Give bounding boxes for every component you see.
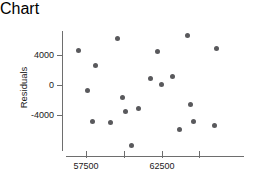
plot-area	[0, 18, 259, 176]
data-point	[155, 49, 160, 54]
data-point	[120, 95, 125, 100]
data-point	[159, 82, 164, 87]
data-point	[76, 48, 81, 53]
scatter-plot: 4000 0 -4000 57500 62500 Residuals Predi…	[0, 18, 259, 176]
data-point	[93, 63, 98, 68]
data-point	[90, 119, 95, 124]
data-point	[188, 102, 193, 107]
data-point	[85, 88, 90, 93]
data-point	[177, 127, 182, 132]
data-point	[123, 109, 128, 114]
data-point	[170, 74, 175, 79]
data-point	[214, 46, 219, 51]
data-point	[212, 123, 217, 128]
data-point	[185, 33, 190, 38]
data-point	[129, 143, 134, 148]
data-point	[191, 119, 196, 124]
data-point	[148, 76, 153, 81]
data-point	[108, 120, 113, 125]
data-point	[115, 36, 120, 41]
data-point	[136, 106, 141, 111]
